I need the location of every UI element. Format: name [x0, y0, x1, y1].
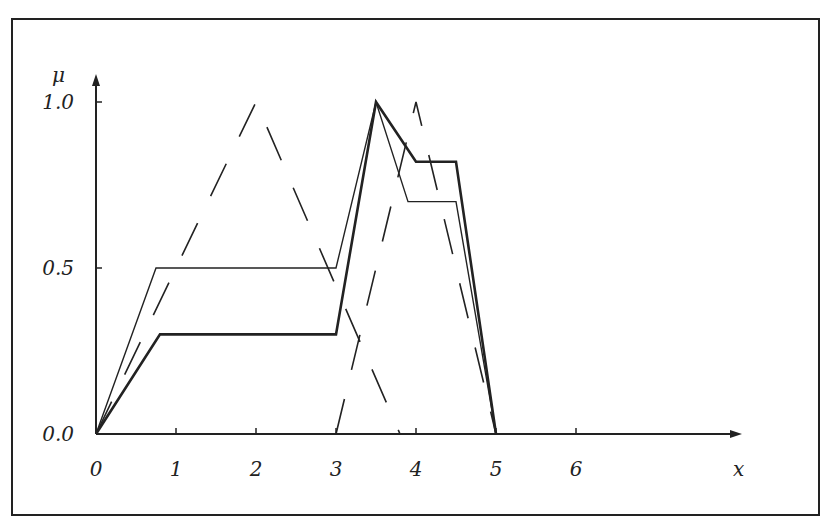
x-axis-arrow-icon — [730, 430, 742, 438]
x-tick-label: 1 — [170, 457, 183, 481]
x-tick-label: 2 — [249, 457, 263, 481]
series-thin — [96, 102, 496, 434]
chart-frame — [12, 19, 819, 515]
x-axis-label: x — [733, 457, 744, 481]
y-tick-label: 1.0 — [42, 90, 74, 114]
x-tick-label: 4 — [409, 457, 423, 481]
series-layer — [96, 102, 496, 434]
chart: 01234560.00.51.0 μ x — [0, 0, 833, 524]
y-tick-label: 0.0 — [42, 422, 74, 446]
x-tick-label: 6 — [570, 457, 583, 481]
y-axis-arrow-icon — [92, 74, 100, 86]
axes: 01234560.00.51.0 — [42, 74, 742, 481]
x-tick-label: 0 — [90, 457, 103, 481]
x-tick-label: 5 — [490, 457, 503, 481]
y-tick-label: 0.5 — [42, 256, 74, 280]
x-tick-label: 3 — [330, 457, 343, 481]
y-axis-label: μ — [52, 63, 65, 87]
